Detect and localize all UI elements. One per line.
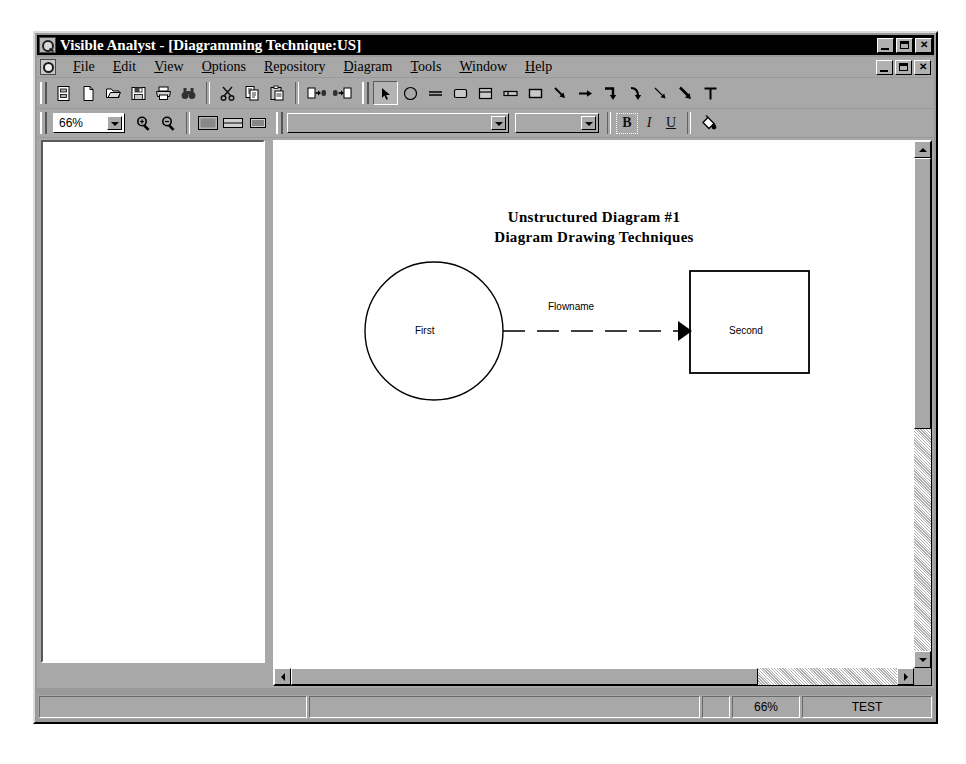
project-icon[interactable] — [51, 81, 76, 105]
paste-icon[interactable] — [265, 81, 290, 105]
screenshot-root: Visible Analyst - [Diagramming Technique… — [0, 0, 966, 764]
document-control-icon[interactable] — [40, 59, 56, 75]
status-hint-panel — [309, 696, 700, 718]
vertical-scroll-thumb[interactable] — [914, 158, 931, 429]
project-explorer-content — [43, 142, 263, 661]
underline-button[interactable]: U — [660, 113, 682, 134]
find-binoculars-icon[interactable] — [176, 81, 201, 105]
menu-item-window[interactable]: Window — [450, 59, 516, 75]
line-tool[interactable] — [423, 81, 448, 105]
circle-tool[interactable] — [398, 81, 423, 105]
font-name-combo[interactable] — [287, 113, 509, 133]
minimize-button[interactable] — [877, 38, 894, 53]
menu-item-file[interactable]: File — [64, 59, 104, 75]
canvas-horizontal-scrollbar[interactable] — [274, 668, 914, 685]
status-mode-panel: TEST — [802, 696, 932, 718]
format-separator-3 — [687, 112, 691, 134]
scroll-up-button[interactable] — [914, 141, 931, 158]
view-list-icon[interactable] — [245, 111, 270, 135]
toolbar-separator — [295, 82, 299, 104]
scroll-right-button[interactable] — [897, 668, 914, 685]
menu-item-options[interactable]: Options — [193, 59, 255, 75]
paint-bucket-icon[interactable] — [696, 111, 721, 135]
entity-box-tool[interactable] — [498, 81, 523, 105]
thin-arrow-tool[interactable] — [648, 81, 673, 105]
bold-label: B — [622, 115, 631, 131]
nudge-left-icon[interactable] — [329, 81, 354, 105]
scrollbar-corner — [914, 668, 931, 685]
italic-button[interactable]: I — [638, 113, 660, 134]
menu-item-edit[interactable]: Edit — [104, 59, 145, 75]
view-full-icon[interactable] — [195, 111, 220, 135]
cut-scissors-icon[interactable] — [215, 81, 240, 105]
node-second-label: Second — [729, 325, 763, 336]
menu-item-view[interactable]: View — [145, 59, 193, 75]
mdi-child-controls: ✕ — [876, 60, 934, 75]
main-toolbar — [37, 78, 934, 108]
corner-arrow-tool[interactable] — [598, 81, 623, 105]
curve-arrow-tool[interactable] — [623, 81, 648, 105]
format-separator-2 — [607, 112, 611, 134]
zoom-value: 66% — [54, 116, 83, 130]
save-disk-icon[interactable] — [126, 81, 151, 105]
format-toolbar: 66% — [37, 109, 934, 137]
child-restore-button[interactable] — [895, 60, 912, 75]
horizontal-scroll-thumb[interactable] — [291, 668, 758, 685]
new-file-icon[interactable] — [76, 81, 101, 105]
status-bar: 66% TEST — [38, 695, 933, 719]
zoom-out-icon[interactable] — [156, 111, 181, 135]
analyst-icon[interactable] — [39, 37, 56, 53]
canvas-vertical-scrollbar[interactable] — [914, 141, 931, 668]
italic-label: I — [647, 115, 652, 131]
format-separator — [186, 112, 190, 134]
node-first-label: First — [415, 325, 434, 336]
toolbar-grip[interactable] — [40, 82, 47, 104]
client-area: Unstructured Diagram #1 Diagram Drawing … — [37, 138, 934, 688]
menu-item-diagram[interactable]: Diagram — [334, 59, 401, 75]
rounded-box-tool[interactable] — [448, 81, 473, 105]
diagram-canvas[interactable]: Unstructured Diagram #1 Diagram Drawing … — [274, 141, 914, 668]
status-message-panel — [39, 696, 307, 718]
scroll-left-button[interactable] — [274, 668, 291, 685]
text-tool[interactable] — [698, 81, 723, 105]
underline-label: U — [666, 115, 676, 131]
status-zoom-panel: 66% — [732, 696, 800, 718]
rectangle-tool[interactable] — [523, 81, 548, 105]
close-button[interactable]: ✕ — [915, 38, 932, 53]
font-size-chevron-down-icon[interactable] — [581, 116, 596, 130]
chevron-down-icon[interactable] — [107, 116, 122, 130]
bold-button[interactable]: B — [616, 113, 638, 134]
view-split-icon[interactable] — [220, 111, 245, 135]
menu-item-tools[interactable]: Tools — [401, 59, 450, 75]
restore-button[interactable] — [896, 38, 913, 53]
diagram-graphics — [274, 141, 914, 668]
diagram-window: Unstructured Diagram #1 Diagram Drawing … — [273, 140, 932, 686]
format-toolbar-grip-2[interactable] — [276, 112, 283, 134]
child-minimize-button[interactable] — [876, 60, 893, 75]
title-bar: Visible Analyst - [Diagramming Technique… — [37, 35, 934, 55]
node-second-shape — [690, 271, 809, 373]
toolbar-grip-2[interactable] — [362, 82, 369, 104]
copy-icon[interactable] — [240, 81, 265, 105]
menu-item-repository[interactable]: Repository — [255, 59, 334, 75]
project-explorer-pane[interactable] — [41, 140, 265, 663]
font-size-combo[interactable] — [515, 113, 599, 133]
zoom-combo[interactable]: 66% — [53, 113, 125, 133]
nudge-right-icon[interactable] — [304, 81, 329, 105]
elbow-arrow-tool[interactable] — [548, 81, 573, 105]
font-name-chevron-down-icon[interactable] — [491, 116, 506, 130]
divided-box-tool[interactable] — [473, 81, 498, 105]
child-close-button[interactable]: ✕ — [914, 60, 931, 75]
toolbar-separator — [206, 82, 210, 104]
scroll-down-button[interactable] — [914, 651, 931, 668]
open-folder-icon[interactable] — [101, 81, 126, 105]
straight-arrow-tool[interactable] — [573, 81, 598, 105]
status-small-panel — [702, 696, 730, 718]
zoom-in-icon[interactable] — [131, 111, 156, 135]
bold-arrow-tool[interactable] — [673, 81, 698, 105]
format-toolbar-grip[interactable] — [40, 112, 47, 134]
menu-item-help[interactable]: Help — [516, 59, 561, 75]
window-controls: ✕ — [877, 38, 934, 53]
print-icon[interactable] — [151, 81, 176, 105]
select-arrow-tool[interactable] — [373, 81, 398, 105]
